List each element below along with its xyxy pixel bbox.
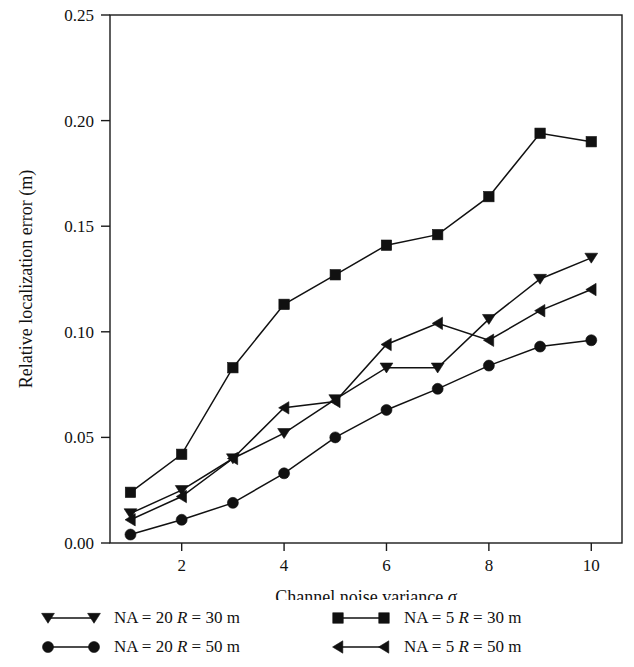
series-2 (125, 335, 597, 540)
marker-triangle-left (535, 304, 545, 316)
chart-legend: NA = 20 R = 30 mNA = 5 R = 30 mNA = 20 R… (0, 604, 634, 664)
y-axis-title: Relative localization error (m) (16, 170, 37, 388)
series-1 (124, 253, 598, 518)
marker-triangle-left (333, 640, 343, 652)
legend-key-square-icon (328, 607, 394, 629)
y-axis-ticks: 0.000.050.100.150.200.25 (64, 6, 110, 553)
marker-circle (535, 341, 546, 352)
y-tick-label: 0.05 (64, 428, 94, 447)
marker-triangle-down (278, 429, 291, 439)
marker-square (330, 270, 340, 280)
series-line (130, 258, 591, 514)
marker-circle (381, 404, 392, 415)
legend-key-circle-icon (38, 636, 104, 658)
chart-figure: 246810 0.000.050.100.150.200.25 Channel … (0, 0, 634, 667)
legend-label: NA = 20 R = 50 m (114, 637, 240, 657)
line-chart-plot: 246810 0.000.050.100.150.200.25 Channel … (0, 0, 634, 600)
legend-label: NA = 20 R = 30 m (114, 608, 240, 628)
plot-border (110, 15, 622, 543)
x-tick-label: 2 (177, 556, 186, 575)
marker-square (228, 363, 238, 373)
marker-square (484, 191, 494, 201)
legend-entry: NA = 20 R = 50 m (38, 633, 306, 660)
marker-square (535, 128, 545, 138)
marker-square (586, 137, 596, 147)
plot-frame (110, 15, 622, 543)
legend-entry: NA = 5 R = 30 m (328, 604, 596, 631)
series-line (130, 290, 591, 520)
marker-square (125, 487, 135, 497)
marker-circle (586, 335, 597, 346)
y-tick-label: 0.25 (64, 6, 94, 25)
y-tick-label: 0.10 (64, 323, 94, 342)
legend-key-triangle-left-icon (328, 636, 394, 658)
marker-triangle-left (432, 317, 442, 329)
marker-circle (227, 497, 238, 508)
series-line (130, 340, 591, 534)
marker-square (333, 612, 343, 622)
x-axis-title: Channel noise variance σ (275, 587, 457, 600)
series-4 (125, 283, 596, 526)
marker-triangle-left (379, 640, 389, 652)
y-tick-label: 0.20 (64, 112, 94, 131)
marker-circle (330, 432, 341, 443)
marker-circle (89, 641, 100, 652)
marker-square (379, 612, 389, 622)
x-tick-label: 4 (280, 556, 289, 575)
marker-circle (176, 514, 187, 525)
y-tick-label: 0.00 (64, 534, 94, 553)
legend-grid: NA = 20 R = 30 mNA = 5 R = 30 mNA = 20 R… (0, 604, 634, 660)
marker-square (279, 299, 289, 309)
marker-circle (432, 383, 443, 394)
legend-label: NA = 5 R = 30 m (404, 608, 521, 628)
x-tick-label: 8 (485, 556, 494, 575)
marker-circle (483, 360, 494, 371)
marker-triangle-down (585, 253, 598, 263)
marker-circle (279, 468, 290, 479)
legend-key-triangle-down-icon (38, 607, 104, 629)
y-tick-label: 0.15 (64, 217, 94, 236)
marker-square (176, 449, 186, 459)
x-axis-title-symbol: σ (448, 587, 458, 600)
marker-triangle-left (586, 283, 596, 295)
marker-triangle-left (483, 334, 493, 346)
marker-square (381, 240, 391, 250)
x-tick-label: 10 (583, 556, 600, 575)
marker-circle (43, 641, 54, 652)
series-line (130, 133, 591, 492)
legend-entry: NA = 20 R = 30 m (38, 604, 306, 631)
data-series-group (124, 128, 598, 540)
x-axis-ticks: 246810 (177, 543, 599, 575)
legend-label: NA = 5 R = 50 m (404, 637, 521, 657)
marker-square (432, 229, 442, 239)
x-tick-label: 6 (382, 556, 391, 575)
legend-entry: NA = 5 R = 50 m (328, 633, 596, 660)
series-3 (125, 128, 596, 497)
marker-circle (125, 529, 136, 540)
